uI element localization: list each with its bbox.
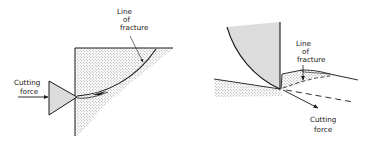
cutting-tool-triangle [49, 81, 77, 115]
left-fracture-label-3: fracture [120, 23, 149, 32]
right-panel: Line of fracture Cutting force [214, 22, 358, 134]
right-fracture-label-3: fracture [297, 55, 326, 64]
left-cutting-force-label-1: Cutting [14, 78, 40, 87]
right-cutting-force-label-1: Cutting [310, 115, 336, 124]
left-cutting-force-label-2: force [20, 87, 39, 96]
workpiece-material [75, 48, 173, 136]
right-chip-material [281, 70, 358, 89]
right-dashed-reference-line [286, 90, 353, 102]
fracture-diagram: Cutting force Line of fracture Line of f… [0, 0, 370, 143]
right-cutting-force-label-2: force [314, 125, 333, 134]
left-panel: Cutting force Line of fracture [14, 7, 173, 136]
right-cutting-tool [227, 22, 280, 89]
